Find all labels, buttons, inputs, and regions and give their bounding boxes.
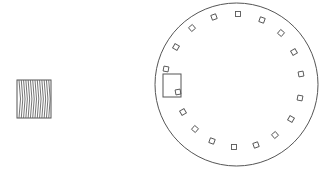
- diagram-canvas: [0, 0, 332, 177]
- striped-block: [17, 80, 51, 118]
- square-marker: [188, 24, 195, 31]
- stripe-line: [28, 80, 30, 118]
- square-marker: [288, 116, 295, 123]
- square-marker: [163, 66, 169, 72]
- square-marker: [271, 131, 278, 138]
- stripe-line: [26, 80, 28, 118]
- square-marker: [175, 89, 181, 95]
- square-marker: [209, 138, 215, 144]
- square-marker: [259, 17, 265, 23]
- stripe-line: [21, 80, 23, 118]
- stripe-line: [42, 80, 44, 118]
- square-marker: [191, 125, 198, 132]
- stripe-line: [37, 80, 39, 118]
- square-marker: [253, 142, 259, 148]
- square-marker: [211, 14, 217, 20]
- stripe-line: [19, 80, 21, 118]
- stripe-line: [44, 80, 46, 118]
- square-marker: [291, 49, 298, 56]
- square-marker: [277, 29, 284, 36]
- square-marker: [180, 109, 187, 116]
- square-marker: [236, 12, 241, 17]
- square-marker: [173, 44, 180, 51]
- stripe-line: [30, 80, 32, 118]
- stripe-line: [24, 80, 26, 118]
- marker-ring: [163, 12, 304, 150]
- stripe-line: [49, 80, 51, 118]
- stripe-line: [35, 80, 37, 118]
- square-marker: [232, 145, 237, 150]
- square-marker: [298, 71, 304, 77]
- outer-circle: [155, 3, 318, 166]
- stripe-line: [33, 80, 35, 118]
- square-marker: [297, 95, 303, 101]
- stripe-line: [46, 80, 48, 118]
- highlight-box: [163, 74, 181, 97]
- stripe-line: [40, 80, 42, 118]
